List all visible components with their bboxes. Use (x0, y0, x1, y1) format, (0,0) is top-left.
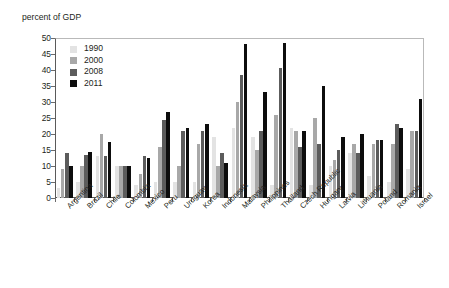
bar-group (288, 38, 307, 198)
bar-group (113, 38, 132, 198)
bar (283, 43, 287, 198)
legend-label: 2008 (84, 66, 103, 76)
bar (166, 112, 170, 198)
y-tick-label: 35 (42, 81, 51, 91)
bar (220, 153, 224, 198)
bar-group (269, 38, 288, 198)
y-tick-label: 10 (42, 161, 51, 171)
bar-group (385, 38, 404, 198)
legend-swatch (70, 46, 77, 53)
bar (352, 144, 356, 198)
bar-group (230, 38, 249, 198)
y-tick-label: 15 (42, 145, 51, 155)
bar (57, 188, 61, 198)
bar-group (133, 38, 152, 198)
legend-swatch (70, 69, 77, 76)
bar (279, 68, 283, 198)
y-tick-label: 30 (42, 97, 51, 107)
legend-swatch (70, 80, 77, 87)
bar (399, 128, 403, 198)
bar-group (366, 38, 385, 198)
bar-group (172, 38, 191, 198)
bar (123, 166, 127, 198)
legend-label: 2000 (84, 55, 103, 65)
bar (65, 153, 69, 198)
bar (356, 153, 360, 198)
bar (186, 128, 190, 198)
plot-area (55, 38, 424, 198)
bar (119, 166, 123, 198)
bar (290, 128, 294, 198)
bar (104, 156, 108, 198)
legend-label: 1990 (84, 43, 103, 53)
bar (419, 99, 423, 198)
bar-group (210, 38, 229, 198)
y-tick-label: 45 (42, 49, 51, 59)
x-tick-mark (55, 198, 56, 202)
bar-group (249, 38, 268, 198)
bar-group (191, 38, 210, 198)
y-tick-label: 50 (42, 33, 51, 43)
bar-group (346, 38, 365, 198)
bar (127, 166, 131, 198)
y-axis-ticks: 05101520253035404550 (0, 0, 51, 236)
y-tick-label: 40 (42, 65, 51, 75)
bar (263, 92, 267, 198)
bar (162, 120, 166, 198)
bar (360, 134, 364, 198)
chart-title-clipped (118, 0, 368, 5)
bar (177, 166, 181, 198)
legend-swatch (70, 57, 77, 64)
bar-group (405, 38, 424, 198)
bar-group (307, 38, 326, 198)
bar (61, 169, 65, 198)
bar (244, 44, 248, 198)
bar (395, 124, 399, 198)
chart-figure: percent of GDP 05101520253035404550 Arge… (0, 0, 449, 288)
bar-group (152, 38, 171, 198)
y-tick-label: 25 (42, 113, 51, 123)
bar (69, 166, 73, 198)
bar (108, 142, 112, 198)
bar (181, 131, 185, 198)
legend-label: 2011 (84, 78, 102, 88)
bar (100, 134, 104, 198)
bar (224, 163, 228, 198)
y-tick-label: 20 (42, 129, 51, 139)
